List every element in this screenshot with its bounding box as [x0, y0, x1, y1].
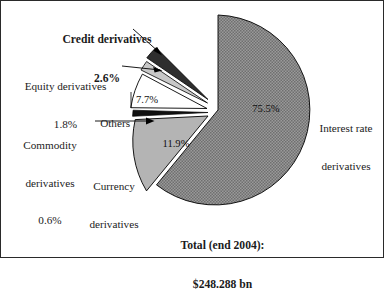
slice-percent-interest-rate: 75.5%: [252, 103, 280, 114]
label-currency-derivatives-name-l1: Currency: [78, 180, 150, 193]
total-caption-line1: Total (end 2004):: [130, 239, 315, 252]
label-equity-derivatives-name: Equity derivatives: [8, 80, 123, 93]
slice-percent-currency: 11.9%: [163, 138, 190, 149]
label-interest-rate-derivatives: Interest rate derivatives: [311, 97, 381, 197]
label-commodity-derivatives-name-l1: Commodity: [8, 139, 92, 152]
total-caption-line2: $248.288 bn: [130, 278, 315, 291]
pie-slice-interest-rate-derivatives: [157, 15, 310, 205]
total-caption: Total (end 2004): $248.288 bn: [130, 213, 315, 293]
label-credit-derivatives-name: Credit derivatives: [46, 33, 168, 46]
pie-slice-commodity-derivatives: [133, 110, 208, 116]
label-interest-rate-derivatives-l1: Interest rate: [311, 122, 381, 135]
label-interest-rate-derivatives-l2: derivatives: [311, 160, 381, 173]
